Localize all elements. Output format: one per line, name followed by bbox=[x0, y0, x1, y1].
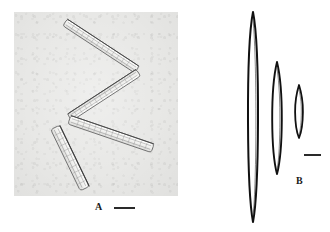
panel-a: A bbox=[0, 0, 195, 232]
figure-root: A B bbox=[0, 0, 330, 232]
panel-a-diatom-chain bbox=[14, 12, 178, 196]
panel-b-valve-drawings bbox=[195, 0, 330, 232]
panel-a-label: A bbox=[95, 202, 102, 212]
valve-outline-medium bbox=[272, 62, 282, 174]
diatom-cell-4 bbox=[51, 125, 90, 191]
diatom-cell-1 bbox=[63, 19, 139, 73]
diatom-cell-2 bbox=[67, 69, 140, 120]
valve-outline-small bbox=[295, 85, 303, 138]
valve-outline-large bbox=[248, 12, 258, 222]
panel-b-label: B bbox=[296, 176, 303, 186]
panel-b-scale-bar bbox=[304, 154, 321, 156]
panel-b: B bbox=[195, 0, 330, 232]
diatom-cell-3 bbox=[68, 115, 154, 152]
panel-a-scale-bar bbox=[114, 207, 135, 209]
